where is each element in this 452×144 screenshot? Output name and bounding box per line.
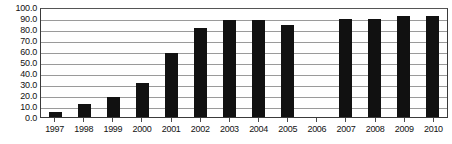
x-axis-tick-label: 2004 xyxy=(244,123,273,137)
x-axis-tick-label: 2010 xyxy=(419,123,448,137)
x-axis-tick-slot xyxy=(40,118,69,122)
x-axis-tick-slot xyxy=(215,118,244,122)
x-axis-tick-label: 2005 xyxy=(273,123,302,137)
bar-slot xyxy=(41,9,70,117)
x-axis-tick-label: 2007 xyxy=(331,123,360,137)
bar[interactable] xyxy=(223,20,236,117)
y-axis-tick-label: 90.0 xyxy=(20,15,37,24)
x-axis-tick-slot xyxy=(361,118,390,122)
bar-slot xyxy=(273,9,302,117)
bar-slot xyxy=(215,9,244,117)
x-axis-tick-label: 2000 xyxy=(127,123,156,137)
x-axis-tick xyxy=(404,118,405,122)
x-axis-tick-label: 2002 xyxy=(186,123,215,137)
bar-slot xyxy=(389,9,418,117)
x-axis-tick xyxy=(316,118,317,122)
bar[interactable] xyxy=(49,112,62,118)
bar-slot xyxy=(70,9,99,117)
bar[interactable] xyxy=(426,16,439,117)
x-axis-tick xyxy=(200,118,201,122)
bar-slot xyxy=(99,9,128,117)
bar[interactable] xyxy=(194,28,207,117)
x-axis-tick-label: 2008 xyxy=(361,123,390,137)
x-axis-tick xyxy=(141,118,142,122)
x-axis-tick-slot xyxy=(244,118,273,122)
bar-slot xyxy=(157,9,186,117)
x-axis-tick-slot xyxy=(273,118,302,122)
x-axis-tick-label: 2006 xyxy=(302,123,331,137)
x-axis-tick xyxy=(258,118,259,122)
y-axis-tick-label: 80.0 xyxy=(20,26,37,35)
x-axis-tick-slot xyxy=(331,118,360,122)
y-axis-tick-label: 70.0 xyxy=(20,37,37,46)
y-axis-tick-label: 40.0 xyxy=(20,70,37,79)
x-axis-tick xyxy=(112,118,113,122)
bar-slot xyxy=(360,9,389,117)
x-axis-tick xyxy=(375,118,376,122)
bar[interactable] xyxy=(136,83,149,117)
y-axis-tick-label: 60.0 xyxy=(20,48,37,57)
bar-slot xyxy=(302,9,331,117)
y-axis-tick-label: 30.0 xyxy=(20,81,37,90)
x-axis: 1997199819992000200120022003200420052006… xyxy=(40,123,448,137)
x-axis-tick-label: 2001 xyxy=(157,123,186,137)
x-axis-tick xyxy=(229,118,230,122)
x-axis-tick-label: 2003 xyxy=(215,123,244,137)
y-axis-tick-label: 0.0 xyxy=(25,114,37,123)
x-axis-tick xyxy=(433,118,434,122)
y-axis-tick-label: 100.0 xyxy=(15,4,37,13)
bar-chart: 0.010.020.030.040.050.060.070.080.090.01… xyxy=(0,0,452,144)
x-axis-tick xyxy=(345,118,346,122)
bars-layer xyxy=(41,9,447,117)
y-axis-tick-label: 50.0 xyxy=(20,59,37,68)
bar[interactable] xyxy=(165,53,178,117)
x-axis-tick-marks xyxy=(40,118,448,122)
bar-slot xyxy=(186,9,215,117)
x-axis-tick xyxy=(171,118,172,122)
x-axis-tick xyxy=(83,118,84,122)
x-axis-tick-label: 1998 xyxy=(69,123,98,137)
bar[interactable] xyxy=(339,19,352,117)
x-axis-tick xyxy=(54,118,55,122)
x-axis-tick-slot xyxy=(302,118,331,122)
x-axis-tick-label: 1999 xyxy=(98,123,127,137)
bar[interactable] xyxy=(78,104,91,117)
x-axis-tick-slot xyxy=(390,118,419,122)
bar[interactable] xyxy=(107,97,120,117)
bar[interactable] xyxy=(397,16,410,117)
x-axis-tick-label: 1997 xyxy=(40,123,69,137)
x-axis-tick-slot xyxy=(127,118,156,122)
bar-slot xyxy=(418,9,447,117)
bar[interactable] xyxy=(252,20,265,117)
x-axis-tick-slot xyxy=(186,118,215,122)
y-axis-tick-label: 10.0 xyxy=(20,103,37,112)
x-axis-tick-slot xyxy=(419,118,448,122)
x-axis-tick xyxy=(287,118,288,122)
x-axis-tick-slot xyxy=(69,118,98,122)
y-axis-tick-label: 20.0 xyxy=(20,92,37,101)
x-axis-tick-slot xyxy=(157,118,186,122)
bar-slot xyxy=(244,9,273,117)
x-axis-tick-slot xyxy=(98,118,127,122)
y-axis: 0.010.020.030.040.050.060.070.080.090.01… xyxy=(0,0,40,124)
bar[interactable] xyxy=(368,19,381,117)
bar[interactable] xyxy=(281,25,294,117)
plot-area xyxy=(40,8,448,118)
x-axis-tick-label: 2009 xyxy=(390,123,419,137)
bar-slot xyxy=(128,9,157,117)
bar-slot xyxy=(331,9,360,117)
